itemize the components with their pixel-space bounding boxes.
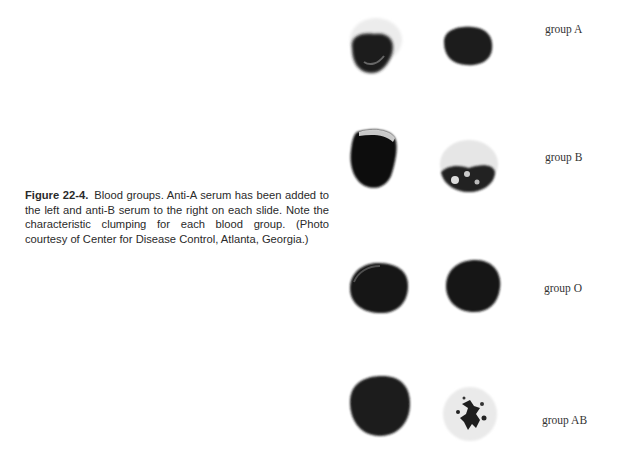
label-group-a: group A bbox=[545, 23, 582, 35]
slide-group-o-right bbox=[442, 256, 506, 318]
label-group-b: group B bbox=[545, 151, 582, 163]
slide-group-a-left bbox=[340, 10, 412, 80]
slide-group-ab-left bbox=[344, 372, 416, 442]
label-group-o: group O bbox=[544, 282, 582, 294]
slide-group-b-right bbox=[437, 138, 501, 196]
slide-group-o-left bbox=[344, 258, 414, 318]
slide-group-b-left bbox=[345, 124, 405, 194]
slide-group-ab-right bbox=[440, 384, 500, 444]
figure-caption: Figure 22-4.Blood groups. Anti-A serum h… bbox=[25, 188, 329, 246]
figure-number: Figure 22-4. bbox=[25, 189, 88, 201]
label-group-ab: group AB bbox=[542, 414, 587, 426]
slide-group-a-right bbox=[438, 22, 498, 72]
